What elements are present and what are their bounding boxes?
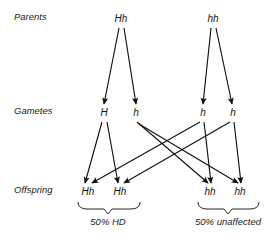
arrow-h2-to-offspring2: [124, 122, 230, 183]
gamete-genotypes: Hhhh: [100, 107, 236, 118]
arrow-h-to-offspring4: [139, 124, 238, 183]
offspring-3: hh: [204, 186, 216, 197]
arrow-h1-to-offspring3: [204, 122, 211, 183]
fertilization-arrows: [85, 122, 241, 183]
outcome-hd-label: 50% HD: [90, 216, 126, 227]
offspring-2: Hh: [114, 186, 127, 197]
row-label-parents: Parents: [14, 11, 47, 22]
parent-right: hh: [207, 13, 219, 24]
arrow-parent1-to-h: [124, 28, 136, 104]
outcome-hd-brace: [78, 202, 140, 214]
offspring-genotypes: HhHhhhhh: [82, 186, 246, 197]
arrow-parent2-to-h1: [203, 28, 211, 104]
meiosis-arrows: [104, 28, 232, 104]
outcome-unaffected-brace: [198, 202, 259, 214]
offspring-1: Hh: [82, 186, 95, 197]
row-labels: Parents Gametes Offspring: [14, 11, 53, 195]
parent-left: Hh: [115, 13, 128, 24]
outcome-brackets: 50% HD50% unaffected: [78, 202, 262, 227]
arrow-parent1-to-H: [104, 28, 119, 104]
offspring-4: hh: [234, 186, 246, 197]
outcome-unaffected-label: 50% unaffected: [195, 216, 262, 227]
row-label-gametes: Gametes: [14, 105, 53, 116]
inheritance-diagram: Parents Gametes Offspring Hhhh Hhhh HhHh…: [0, 0, 278, 235]
gamete-p2-h2: h: [230, 107, 236, 118]
arrow-H-to-offspring1: [85, 122, 102, 183]
gamete-p1-H: H: [100, 107, 108, 118]
row-label-offspring: Offspring: [14, 184, 53, 195]
arrow-parent2-to-h2: [216, 28, 232, 104]
arrow-h-to-offspring3: [137, 122, 208, 183]
gamete-p1-h: h: [133, 107, 139, 118]
arrow-h2-to-offspring4: [234, 122, 241, 183]
diagram-canvas: Parents Gametes Offspring Hhhh Hhhh HhHh…: [0, 0, 278, 235]
gamete-p2-h1: h: [200, 107, 206, 118]
parent-genotypes: Hhhh: [115, 13, 219, 24]
